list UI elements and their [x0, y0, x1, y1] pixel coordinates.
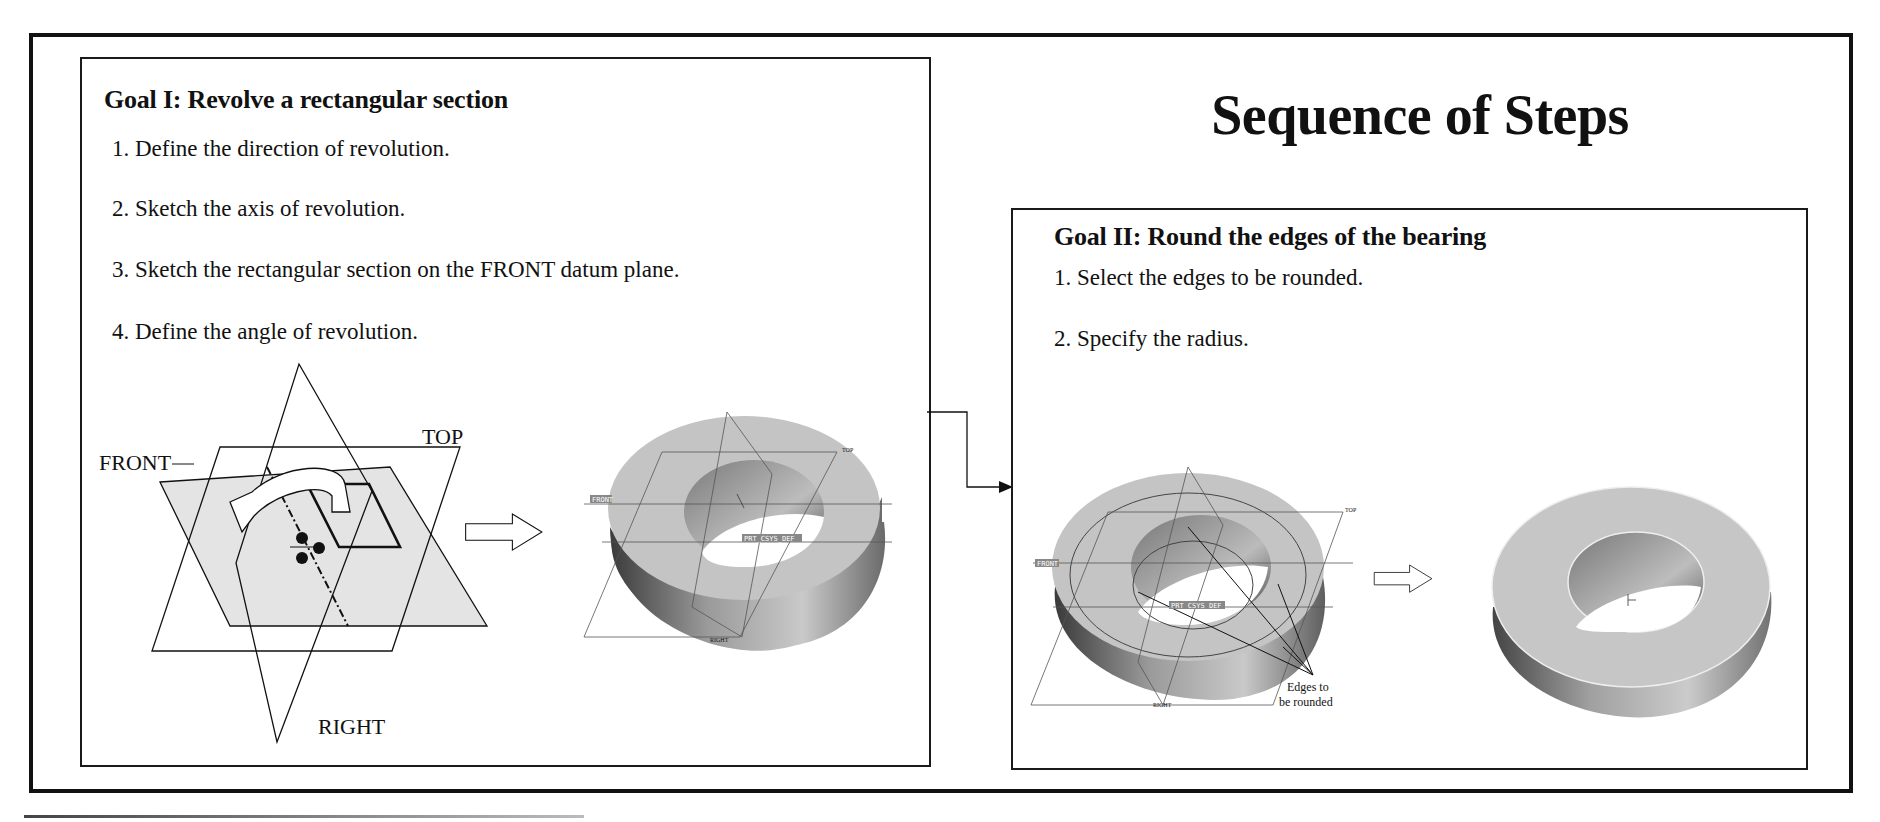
top-label: TOP [422, 424, 463, 449]
goal-1-panel: Goal I: Revolve a rectangular section 1.… [80, 57, 931, 767]
connector-arrow-icon [925, 405, 1025, 505]
model-top-label: TOP [1345, 507, 1357, 513]
callout-line-1: Edges to [1287, 680, 1329, 694]
csys-label: PRT_CSYS_DEF [744, 535, 795, 543]
front-label: FRONT [99, 450, 172, 475]
callout-line-2: be rounded [1279, 695, 1333, 709]
arrow-right-icon [464, 514, 544, 564]
arrow-right-icon [1373, 565, 1453, 615]
page-title: Sequence of Steps [1150, 83, 1690, 147]
goal-2-title: Goal II: Round the edges of the bearing [1054, 222, 1486, 252]
model-top-label: TOP [842, 447, 854, 453]
csys-label: PRT_CSYS_DEF [1171, 602, 1222, 610]
right-label: RIGHT [318, 714, 386, 739]
model-front-label: FRONT [1037, 560, 1059, 568]
goal-1-step-1: 1. Define the direction of revolution. [112, 136, 450, 162]
goal-2-step-1: 1. Select the edges to be rounded. [1054, 265, 1363, 291]
goal-1-title: Goal I: Revolve a rectangular section [104, 85, 508, 115]
model-front-label: FRONT [592, 496, 614, 504]
datum-planes-sketch: FRONT TOP RIGHT [102, 364, 522, 744]
revolved-bearing-model: PRT_CSYS_DEF FRONT TOP RIGHT [592, 412, 932, 682]
model-right-label: RIGHT [1153, 702, 1172, 708]
model-right-label: RIGHT [710, 637, 729, 643]
goal-2-step-2: 2. Specify the radius. [1054, 326, 1249, 352]
goal-1-step-4: 4. Define the angle of revolution. [112, 319, 418, 345]
goal-1-step-3: 3. Sketch the rectangular section on the… [112, 257, 679, 283]
goal-2-panel: Goal II: Round the edges of the bearing … [1011, 208, 1808, 770]
goal-1-step-2: 2. Sketch the axis of revolution. [112, 196, 405, 222]
bearing-edges-model: PRT_CSYS_DEF FRONT TOP RIGHT Edges to be… [1043, 467, 1393, 727]
rounded-bearing-model [1491, 482, 1791, 732]
bottom-rule [24, 815, 584, 818]
